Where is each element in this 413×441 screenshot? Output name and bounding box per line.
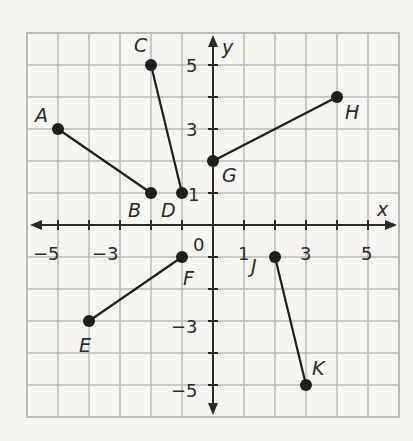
point-label-k: K xyxy=(312,357,326,379)
x-tick-label: 3 xyxy=(300,243,311,264)
y-tick-label: 3 xyxy=(186,119,197,140)
point-h xyxy=(331,91,343,103)
x-axis-left-arrow-icon xyxy=(30,220,42,230)
y-axis-up-arrow-icon xyxy=(208,35,218,47)
y-tick-label: −3 xyxy=(171,316,198,337)
x-tick-label: 5 xyxy=(361,243,372,264)
y-axis-down-arrow-icon xyxy=(208,403,218,415)
point-label-h: H xyxy=(345,101,359,123)
y-tick-label: 5 xyxy=(186,55,197,76)
point-label-b: B xyxy=(128,199,141,221)
y-axis-label: y xyxy=(221,36,234,58)
point-label-e: E xyxy=(79,334,91,356)
axes xyxy=(30,35,397,415)
x-tick-label: −5 xyxy=(33,243,60,264)
point-j xyxy=(269,251,281,263)
point-e xyxy=(83,315,95,327)
point-label-d: D xyxy=(161,199,176,221)
y-tick-label: −5 xyxy=(171,380,198,401)
point-f xyxy=(176,251,188,263)
x-axis-label: x xyxy=(376,198,389,220)
point-label-f: F xyxy=(183,267,195,289)
point-k xyxy=(300,379,312,391)
coordinate-plane: −5 −3 1 3 5 5 3 1 −3 −5 0 x y A B C xyxy=(0,0,413,441)
x-tick-label: 1 xyxy=(238,243,249,264)
point-d xyxy=(176,187,188,199)
x-axis-right-arrow-icon xyxy=(385,220,397,230)
y-tick-label: 1 xyxy=(188,184,199,205)
point-label-c: C xyxy=(134,34,148,56)
point-a xyxy=(52,123,64,135)
x-tick-label: −3 xyxy=(92,243,119,264)
origin-label: 0 xyxy=(193,234,204,255)
point-b xyxy=(145,187,157,199)
point-g xyxy=(207,155,219,167)
point-label-a: A xyxy=(33,104,48,126)
point-c xyxy=(145,59,157,71)
point-label-g: G xyxy=(222,164,237,186)
